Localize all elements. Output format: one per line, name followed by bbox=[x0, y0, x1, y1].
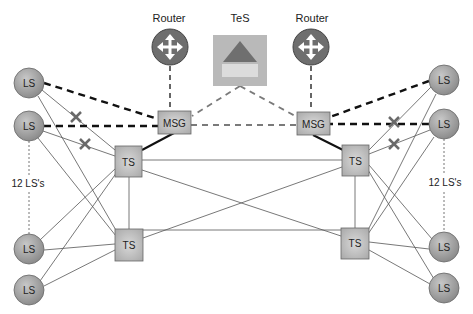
router-left[interactable] bbox=[152, 29, 188, 65]
ls-label: LS bbox=[23, 78, 36, 89]
ls-label: LS bbox=[438, 75, 451, 86]
router-right-label: Router bbox=[295, 12, 328, 24]
ts-label: TS bbox=[349, 238, 362, 249]
ts-label: TS bbox=[349, 156, 362, 167]
ls-label: LS bbox=[438, 242, 451, 253]
ls-label: LS bbox=[23, 121, 36, 132]
ls-label: LS bbox=[438, 119, 451, 130]
ts-right-top[interactable]: TS bbox=[342, 145, 369, 176]
ls-left-1[interactable]: LS bbox=[14, 68, 44, 98]
msg-left-label: MSG bbox=[163, 118, 186, 129]
ls-right-3[interactable]: LS bbox=[429, 232, 459, 262]
ls-left-2[interactable]: LS bbox=[14, 111, 44, 141]
ls-count-right-label: 12 LS's bbox=[428, 177, 461, 188]
ts-left-bottom[interactable]: TS bbox=[115, 229, 143, 261]
x-icon bbox=[389, 117, 399, 127]
msg-right-label: MSG bbox=[302, 119, 325, 130]
ls-right-1[interactable]: LS bbox=[429, 65, 459, 95]
ts-left-top[interactable]: TS bbox=[115, 146, 142, 177]
ls-label: LS bbox=[438, 283, 451, 294]
failed-link-x-icons bbox=[71, 112, 399, 149]
tes-node[interactable] bbox=[213, 35, 267, 86]
ls-label: LS bbox=[23, 285, 36, 296]
tes-msg-links bbox=[191, 86, 297, 125]
ts-right-bottom[interactable]: TS bbox=[341, 228, 369, 259]
ls-left-4[interactable]: LS bbox=[14, 275, 44, 305]
ls-range-dotted bbox=[29, 139, 444, 234]
ls-count-left-label: 12 LS's bbox=[11, 178, 44, 189]
ts-label: TS bbox=[122, 157, 135, 168]
msg-left[interactable]: MSG bbox=[158, 111, 191, 134]
router-left-label: Router bbox=[152, 12, 185, 24]
ls-label: LS bbox=[23, 244, 36, 255]
ls-right-2[interactable]: LS bbox=[429, 109, 459, 139]
msg-right[interactable]: MSG bbox=[297, 112, 330, 135]
ls-left-3[interactable]: LS bbox=[14, 234, 44, 264]
msg-ts-links bbox=[142, 133, 343, 150]
ts-interconnects bbox=[129, 160, 355, 238]
tes-label: TeS bbox=[231, 12, 250, 24]
ts-label: TS bbox=[123, 240, 136, 251]
router-right[interactable] bbox=[293, 29, 329, 65]
x-icon bbox=[71, 112, 81, 122]
x-icon bbox=[389, 139, 399, 149]
ls-right-4[interactable]: LS bbox=[429, 273, 459, 303]
network-diagram: Router Router TeS MSG MSG TS TS bbox=[0, 0, 473, 314]
